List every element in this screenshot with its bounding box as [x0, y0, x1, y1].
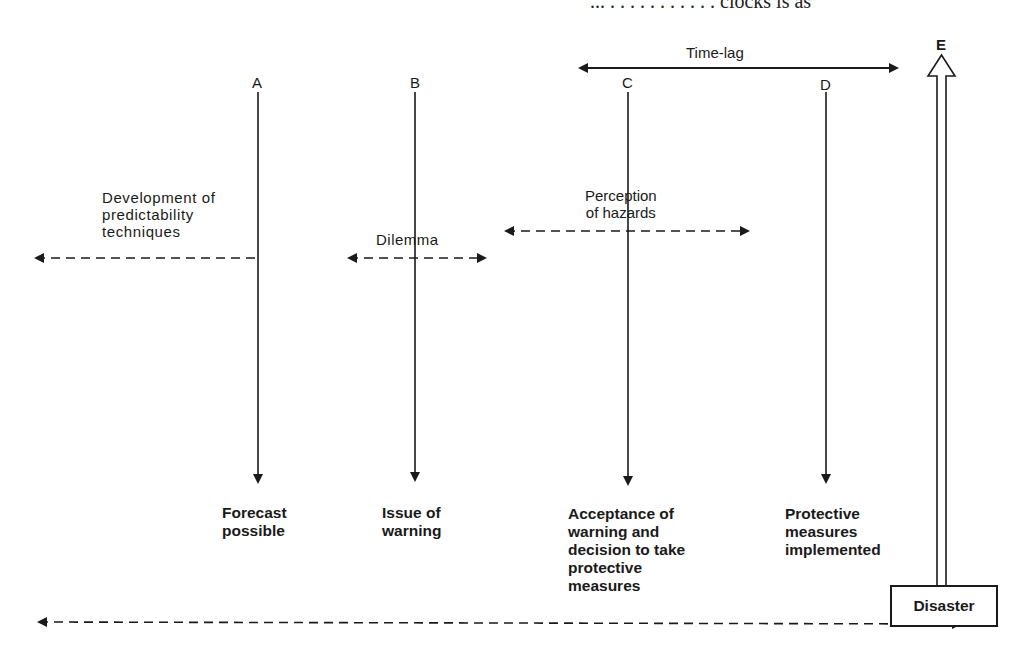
time-lag-label: Time-lag — [686, 44, 744, 61]
stage-a-letter: A — [252, 74, 262, 91]
outcome-line: measures — [568, 577, 685, 595]
outcome-line: decision to take — [568, 541, 685, 559]
stage-e-letter: E — [936, 36, 946, 53]
development-label: Development of predictability techniques — [102, 189, 215, 240]
outcome-line: Acceptance of — [568, 505, 685, 523]
development-label-line: Development of — [102, 189, 215, 206]
disaster-box: Disaster — [890, 585, 998, 627]
overall-timeline-dashed-arrow — [39, 622, 960, 624]
diagram-lines — [0, 0, 1029, 664]
stage-c-letter: C — [622, 74, 633, 91]
stage-d-letter: D — [820, 76, 831, 93]
outcome-line: warning — [382, 522, 441, 540]
development-label-line: techniques — [102, 223, 215, 240]
outcome-line: Issue of — [382, 504, 441, 522]
development-label-line: predictability — [102, 206, 215, 223]
outcome-line: protective — [568, 559, 685, 577]
outcome-line: possible — [222, 522, 287, 540]
outcome-acceptance-of-warning: Acceptance of warning and decision to ta… — [568, 505, 685, 595]
stage-e-hollow-arrow — [928, 55, 955, 586]
perception-label-line: of hazards — [585, 204, 657, 221]
dilemma-label: Dilemma — [376, 231, 439, 248]
disaster-label: Disaster — [913, 597, 974, 615]
outcome-line: implemented — [785, 541, 881, 559]
perception-label-line: Perception — [585, 187, 657, 204]
outcome-line: warning and — [568, 523, 685, 541]
stage-b-letter: B — [410, 74, 420, 91]
outcome-protective-measures-implemented: Protective measures implemented — [785, 505, 881, 559]
outcome-line: Forecast — [222, 504, 287, 522]
perception-label: Perception of hazards — [585, 187, 657, 221]
outcome-forecast-possible: Forecast possible — [222, 504, 287, 540]
outcome-line: Protective — [785, 505, 881, 523]
outcome-issue-of-warning: Issue of warning — [382, 504, 441, 540]
outcome-line: measures — [785, 523, 881, 541]
